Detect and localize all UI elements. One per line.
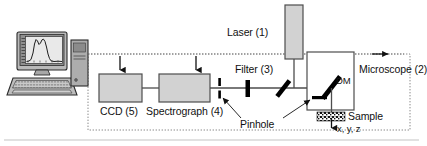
pinhole-leaders <box>223 98 310 118</box>
label-pinhole: Pinhole <box>240 119 274 130</box>
spectrograph-box <box>159 74 210 102</box>
label-filter: Filter (3) <box>235 64 273 75</box>
filter-optic <box>246 80 251 97</box>
laser-box <box>285 5 303 88</box>
label-stage-axes: x, y, z <box>337 124 360 134</box>
objective-bar <box>312 96 327 99</box>
computer-workstation <box>7 32 88 95</box>
label-spectrograph: Spectrograph (4) <box>146 106 223 117</box>
label-sample: Sample <box>348 111 383 122</box>
label-microscope: Microscope (2) <box>359 64 427 75</box>
label-dm: DM <box>336 76 351 86</box>
ccd-box <box>99 74 142 102</box>
label-laser: Laser (1) <box>227 27 268 38</box>
label-ccd: CCD (5) <box>100 106 138 117</box>
